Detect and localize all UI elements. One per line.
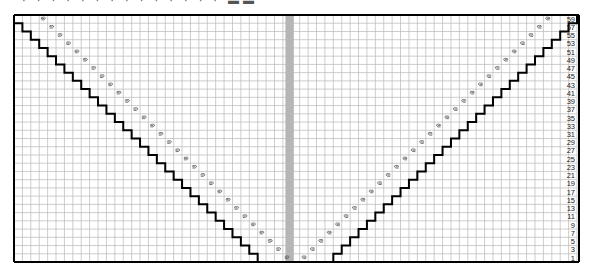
row-number-label: 1 — [571, 254, 575, 263]
knitting-chart: 5957555351494745434139373533312927252321… — [0, 0, 612, 277]
